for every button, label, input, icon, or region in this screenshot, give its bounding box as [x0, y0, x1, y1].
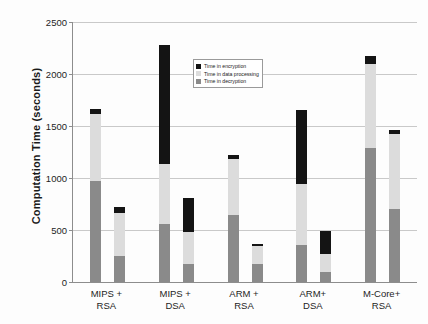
bar-segment [296, 245, 307, 282]
y-axis-tick-mark [69, 178, 73, 179]
bar-stack [252, 244, 263, 282]
y-axis-tick-mark [69, 230, 73, 231]
x-label-line-1: ARM + [229, 288, 258, 299]
bar-segment [296, 110, 307, 184]
x-axis-category-label: M-Core+RSA [337, 288, 427, 312]
bar-segment [365, 64, 376, 148]
bar-stack [228, 155, 239, 282]
y-axis-tick-label: 0 [62, 277, 67, 288]
legend-item-label: Time in encryption [204, 63, 246, 69]
bar-segment [114, 213, 125, 256]
bar-stack [159, 45, 170, 282]
bar-segment [365, 56, 376, 63]
bar-group [90, 22, 125, 282]
bar-group [365, 22, 400, 282]
bar-stack [389, 130, 400, 282]
bar-segment [296, 184, 307, 244]
y-axis-tick-label: 500 [51, 225, 67, 236]
y-axis-tick-mark [69, 22, 73, 23]
bar-segment [114, 256, 125, 282]
bar-segment [389, 209, 400, 282]
y-axis-tick-label: 1000 [46, 173, 67, 184]
legend-item: Time in data processing [196, 70, 259, 77]
bar-stack [183, 198, 194, 282]
bar-segment [90, 114, 101, 182]
bar-segment [159, 45, 170, 164]
x-label-line-1: MIPS + [159, 288, 190, 299]
bar-stack [296, 110, 307, 282]
legend-item: Time in encryption [196, 63, 259, 70]
bar-segment [183, 232, 194, 264]
y-axis-tick-label: 2500 [46, 17, 67, 28]
x-label-line-2: RSA [337, 300, 427, 312]
bar-segment [365, 148, 376, 282]
legend-item-label: Time in data processing [204, 71, 259, 77]
y-axis-tick-mark [69, 74, 73, 75]
legend-item-label: Time in decryption [204, 78, 246, 84]
bar-segment [320, 254, 331, 272]
bar-segment [252, 264, 263, 282]
y-axis-tick-label: 1500 [46, 121, 67, 132]
y-axis-title: Computation Time (seconds) [30, 36, 42, 256]
y-axis-tick-mark [69, 126, 73, 127]
bar-stack [320, 231, 331, 282]
bar-group [159, 22, 194, 282]
chart-legend: Time in encryptionTime in data processin… [193, 59, 263, 88]
x-label-line-1: M-Core+ [363, 288, 400, 299]
x-label-line-1: ARM+ [299, 288, 326, 299]
bar-stack [90, 109, 101, 282]
bar-segment [252, 246, 263, 265]
legend-item: Time in decryption [196, 78, 259, 85]
bar-group [296, 22, 331, 282]
bar-segment [183, 198, 194, 232]
legend-swatch-icon [196, 71, 201, 76]
bar-segment [159, 224, 170, 282]
x-label-line-1: MIPS + [91, 288, 122, 299]
bar-stack [365, 56, 376, 282]
bar-segment [228, 159, 239, 216]
bar-segment [90, 181, 101, 282]
legend-swatch-icon [196, 79, 201, 84]
bar-segment [389, 134, 400, 209]
bar-segment [228, 215, 239, 282]
bar-segment [320, 231, 331, 254]
y-axis-tick-mark [69, 282, 73, 283]
legend-swatch-icon [196, 64, 201, 69]
bar-segment [183, 264, 194, 282]
y-axis-tick-label: 2000 [46, 69, 67, 80]
bar-segment [159, 164, 170, 224]
bar-stack [114, 207, 125, 282]
bar-chart: Computation Time (seconds) 0500100015002… [0, 0, 428, 324]
bar-segment [320, 272, 331, 282]
